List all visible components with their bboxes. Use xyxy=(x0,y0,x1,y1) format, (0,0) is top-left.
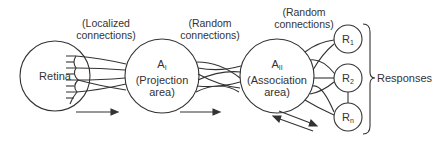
random-connections-label-1: (Random connections) xyxy=(172,17,248,41)
random-connections-label-2: (Random connections) xyxy=(266,6,342,30)
response-r1-label: R1 xyxy=(336,33,360,49)
random-connections-1 xyxy=(196,62,241,92)
response-r2-label: R2 xyxy=(336,72,360,88)
responses-brace xyxy=(363,24,375,134)
retina-label: Retina xyxy=(28,70,82,82)
responses-label: Responses xyxy=(377,72,447,84)
response-rn-label: Rn xyxy=(336,111,360,127)
localized-connections-label: (Localized connections) xyxy=(68,17,144,41)
perceptron-diagram: (Localized connections) (Random connecti… xyxy=(0,0,447,141)
projection-area-label: AI (Projection area) xyxy=(126,58,198,98)
association-area-label: AII (Association area) xyxy=(238,58,316,98)
